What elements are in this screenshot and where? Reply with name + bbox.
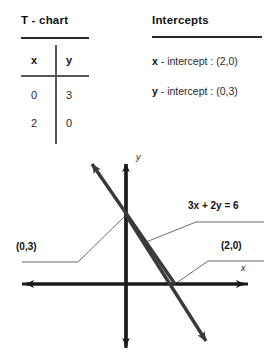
coordinate-graph: y x 3x + 2y = 6 (0,3) (2,0) bbox=[0, 150, 269, 362]
worksheet-page: T - chart x y 0 3 2 0 Intercepts x - int… bbox=[0, 0, 269, 362]
y-intercept-text: - intercept : (0,3) bbox=[158, 85, 238, 97]
axes bbox=[22, 164, 248, 348]
intercepts-title-underline bbox=[152, 36, 262, 38]
tchart-column-divider bbox=[55, 45, 57, 144]
tchart-row-1-y: 0 bbox=[66, 117, 72, 129]
tchart-row-0-y: 3 bbox=[66, 89, 72, 101]
tchart-title-underline bbox=[21, 37, 89, 39]
leader-line-y-intercept bbox=[22, 215, 126, 262]
y-axis-label: y bbox=[136, 152, 141, 162]
x-intercept-line: x - intercept : (2,0) bbox=[152, 55, 238, 67]
graph-svg bbox=[0, 150, 269, 362]
tchart-row-0-x: 0 bbox=[31, 89, 37, 101]
leader-line-x-intercept bbox=[175, 261, 264, 284]
x-intercept-text: - intercept : (2,0) bbox=[158, 55, 238, 67]
y-intercept-point-label: (0,3) bbox=[16, 241, 37, 252]
leader-line-equation bbox=[146, 222, 264, 242]
equation-label: 3x + 2y = 6 bbox=[188, 200, 239, 211]
tchart-header-x: x bbox=[31, 54, 37, 66]
y-intercept-line: y - intercept : (0,3) bbox=[152, 85, 238, 97]
x-axis-label: x bbox=[241, 263, 246, 273]
tchart-row-1-x: 2 bbox=[31, 117, 37, 129]
intercepts-title: Intercepts bbox=[152, 14, 209, 26]
tchart-header-y: y bbox=[66, 54, 72, 66]
plotted-line bbox=[92, 164, 206, 341]
tchart-title: T - chart bbox=[21, 14, 68, 26]
x-intercept-point-label: (2,0) bbox=[221, 240, 242, 251]
